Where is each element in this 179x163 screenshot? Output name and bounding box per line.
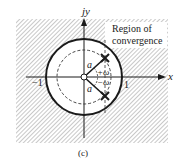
figure-caption: (c): [78, 148, 88, 158]
pole-magnitude-label-lower: a: [87, 83, 92, 94]
angle-label-positive: +ω: [97, 67, 109, 77]
zero-origin-icon: [81, 74, 87, 80]
angle-label-negative: −ω: [97, 77, 109, 87]
y-axis-label: jy: [80, 5, 90, 17]
pole-magnitude-label-upper: a: [87, 59, 92, 70]
pole-zero-diagram: jy x −1 1 Region of convergence a a +ω −…: [0, 0, 179, 163]
region-label-line1: Region of: [112, 23, 152, 34]
region-label-line2: convergence: [112, 35, 163, 46]
tick-neg-one: −1: [32, 77, 43, 88]
x-axis-label: x: [167, 70, 173, 82]
tick-pos-one: 1: [124, 79, 129, 90]
